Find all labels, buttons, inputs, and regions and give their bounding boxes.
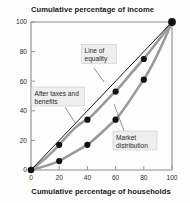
x-tick-label-0: 0 xyxy=(29,174,33,181)
annotation-after-taxes-benefits: After taxes and benefits xyxy=(32,87,85,124)
x-tick-label-40: 40 xyxy=(84,174,92,181)
y-tick-label-40: 40 xyxy=(20,107,28,114)
chart-canvas: Cumulative percentage of income 0 20 40 … xyxy=(0,0,190,203)
data-point-market-80 xyxy=(141,77,147,83)
y-tick-label-20: 20 xyxy=(20,137,28,144)
annotation-label-aftertax-line1: After taxes and xyxy=(35,90,80,97)
annotation-market-distribution: Market distribution xyxy=(113,104,157,150)
data-point-market-20 xyxy=(56,158,62,164)
x-axis-title: Cumulative percentage of households xyxy=(31,187,170,196)
x-tick-label-20: 20 xyxy=(56,174,64,181)
annotation-label-market-line1: Market xyxy=(116,134,136,141)
x-tick-label-100: 100 xyxy=(166,174,177,181)
annotation-line-of-equality: Line of equality xyxy=(82,45,117,83)
data-point-origin xyxy=(28,167,35,174)
data-point-aftertax-40 xyxy=(84,117,90,123)
data-point-market-40 xyxy=(84,142,90,148)
data-point-market-60 xyxy=(113,117,119,123)
data-point-aftertax-80 xyxy=(141,56,147,62)
y-tick-label-60: 60 xyxy=(20,78,28,85)
x-tick-label-80: 80 xyxy=(140,174,148,181)
annotation-label-equality-line1: Line of xyxy=(85,47,105,54)
data-point-aftertax-20 xyxy=(56,142,62,148)
annotation-label-equality-line2: equality xyxy=(85,55,108,63)
data-point-endpoint xyxy=(168,18,176,26)
lorenz-curve-figure: Cumulative percentage of income 0 20 40 … xyxy=(0,0,190,203)
y-axis-title: Cumulative percentage of income xyxy=(31,5,154,14)
y-tick-label-0: 0 xyxy=(23,166,27,173)
y-tick-label-80: 80 xyxy=(20,48,28,55)
annotation-label-aftertax-line2: benefits xyxy=(35,98,59,105)
leader-line-equality xyxy=(94,68,104,82)
x-tick-marks xyxy=(31,166,172,170)
leader-line-aftertax xyxy=(65,107,76,124)
annotation-label-market-line2: distribution xyxy=(116,142,148,149)
x-tick-label-60: 60 xyxy=(112,174,120,181)
data-point-aftertax-60 xyxy=(113,89,119,95)
y-tick-label-100: 100 xyxy=(16,18,27,25)
